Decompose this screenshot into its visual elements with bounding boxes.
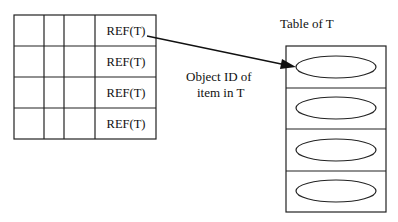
ref-label: REF(T) xyxy=(96,86,156,100)
ref-label: REF(T) xyxy=(96,24,156,38)
object-ellipse xyxy=(296,180,376,202)
right-table-title: Table of T xyxy=(280,17,334,31)
diagram-canvas xyxy=(0,0,398,222)
ref-label: REF(T) xyxy=(96,117,156,131)
object-ellipse xyxy=(296,139,376,161)
arrow-label-line2: item in T xyxy=(197,86,244,100)
object-ellipse xyxy=(296,97,376,119)
arrow-label-line1: Object ID of xyxy=(186,70,252,84)
reference-arrow xyxy=(147,36,296,69)
right-table xyxy=(286,46,386,212)
ref-label: REF(T) xyxy=(96,55,156,69)
object-ellipse xyxy=(296,56,376,78)
